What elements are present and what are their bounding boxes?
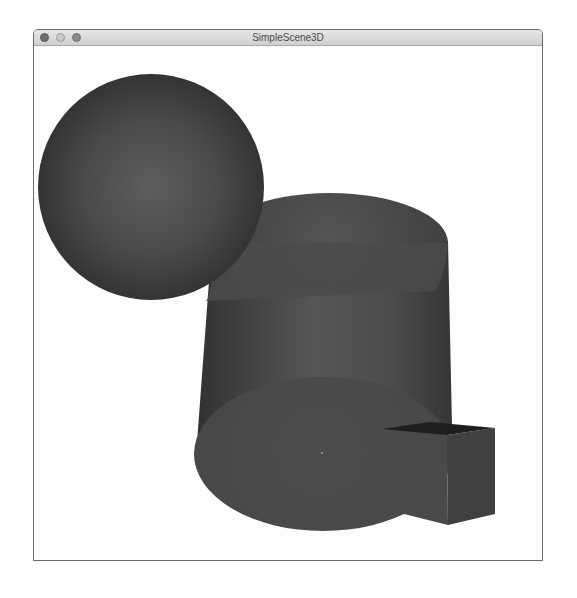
app-window: SimpleScene3D xyxy=(33,29,543,561)
cube xyxy=(382,422,495,525)
title-bar[interactable]: SimpleScene3D xyxy=(34,30,542,46)
cube-right-face xyxy=(447,428,495,525)
window-title: SimpleScene3D xyxy=(34,31,542,45)
sphere xyxy=(38,74,264,300)
scene-canvas[interactable] xyxy=(34,46,542,561)
scene-viewport[interactable] xyxy=(34,46,542,561)
